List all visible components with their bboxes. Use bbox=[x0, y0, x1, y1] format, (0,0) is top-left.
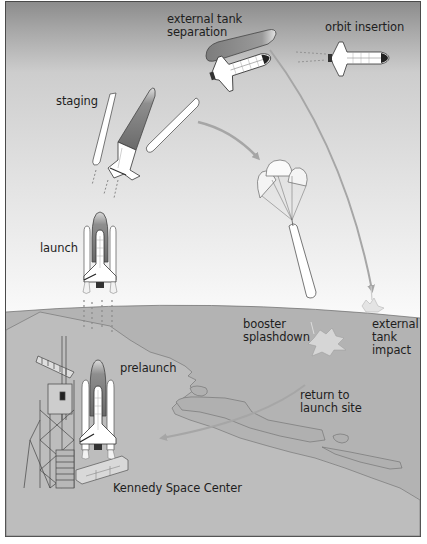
label-external-tank-impact: external tank impact bbox=[372, 318, 419, 357]
label-return-to-launch-site: return to launch site bbox=[300, 389, 362, 415]
label-orbit-insertion: orbit insertion bbox=[325, 21, 404, 34]
label-booster-splashdown: booster splashdown bbox=[243, 318, 310, 344]
label-staging: staging bbox=[56, 95, 98, 108]
label-prelaunch: prelaunch bbox=[120, 362, 176, 375]
label-external-tank-separation: external tank separation bbox=[167, 13, 242, 39]
diagram-canvas: external tank separation orbit insertion… bbox=[0, 0, 427, 544]
label-launch: launch bbox=[40, 242, 78, 255]
label-kennedy-space-center: Kennedy Space Center bbox=[113, 482, 242, 495]
diagram-illustration bbox=[0, 0, 427, 544]
